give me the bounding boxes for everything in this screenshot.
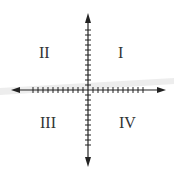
smear-artifact (0, 78, 174, 95)
quadrant-label-iv: IV (119, 115, 136, 131)
quadrant-label-i: I (118, 45, 123, 61)
x-axis-right-arrow-icon (157, 87, 166, 93)
quadrant-label-ii: II (39, 45, 50, 61)
y-axis-down-arrow-icon (85, 157, 91, 167)
quadrant-label-iii: III (40, 115, 56, 131)
y-axis-up-arrow-icon (85, 13, 91, 23)
coordinate-plane (0, 0, 174, 172)
